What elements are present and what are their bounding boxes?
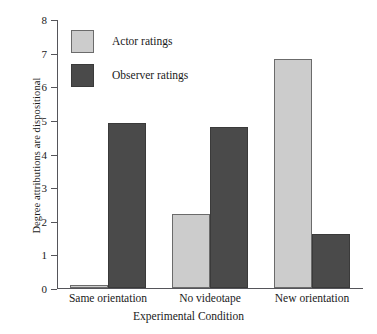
- legend-swatch-observer-icon: [71, 64, 94, 87]
- y-axis-tick-label: 3: [42, 180, 48, 196]
- y-axis-tick: 6: [51, 87, 57, 88]
- y-axis-tick: 2: [51, 222, 57, 223]
- y-axis-tick-label: 0: [42, 281, 48, 297]
- y-axis-tick-label: 4: [42, 147, 48, 163]
- y-axis-tick-label: 2: [42, 214, 48, 230]
- y-axis-tick: 1: [51, 255, 57, 256]
- bar-actor: [274, 59, 312, 288]
- y-axis-tick: 8: [51, 20, 57, 21]
- y-axis-line: [57, 20, 58, 289]
- bar-actor: [70, 285, 108, 288]
- y-axis-title: Degree attributions are dispositional: [31, 16, 42, 296]
- y-axis-tick: 4: [51, 155, 57, 156]
- x-axis-line: [57, 288, 363, 289]
- y-axis-tick-label: 1: [42, 247, 48, 263]
- bar-chart-figure: Degree attributions are dispositional 01…: [0, 0, 377, 334]
- y-axis-tick-label: 7: [42, 46, 48, 62]
- legend-label-observer: Observer ratings: [112, 69, 188, 81]
- y-axis-tick-label: 8: [42, 12, 48, 28]
- bar-observer: [312, 234, 350, 288]
- y-axis-tick: 3: [51, 188, 57, 189]
- legend-item-actor: Actor ratings: [71, 24, 188, 58]
- bar-actor: [172, 214, 210, 288]
- y-axis-tick: 0: [51, 289, 57, 290]
- x-axis-tick-label: New orientation: [275, 292, 349, 304]
- chart-legend: Actor ratings Observer ratings: [71, 24, 188, 92]
- x-axis-tick-label: No videotape: [179, 292, 241, 304]
- y-axis-tick: 7: [51, 54, 57, 55]
- plot-area: 012345678 Actor ratings Observer ratings: [57, 20, 363, 289]
- legend-item-observer: Observer ratings: [71, 58, 188, 92]
- bar-observer: [210, 127, 248, 288]
- x-axis-title: Experimental Condition: [0, 310, 377, 322]
- legend-label-actor: Actor ratings: [112, 35, 172, 47]
- x-axis-tick-label: Same orientation: [69, 292, 147, 304]
- y-axis-tick: 5: [51, 121, 57, 122]
- y-axis-tick-label: 5: [42, 113, 48, 129]
- bar-observer: [108, 123, 146, 288]
- legend-swatch-actor-icon: [71, 30, 94, 53]
- y-axis-tick-label: 6: [42, 79, 48, 95]
